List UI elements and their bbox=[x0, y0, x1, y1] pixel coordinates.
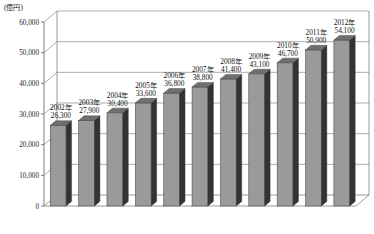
bar-column bbox=[164, 89, 185, 206]
data-label: 2006年36,800 bbox=[164, 71, 186, 88]
bar-chart: 010,00020,00030,00040,00050,00060,000 20… bbox=[0, 0, 374, 234]
bar-column bbox=[220, 74, 241, 206]
data-label: 2003年27,900 bbox=[78, 98, 100, 115]
chart-canvas: 010,00020,00030,00040,00050,00060,000 20… bbox=[0, 0, 374, 234]
bar-column bbox=[277, 58, 298, 206]
y-tick-label: 0 bbox=[35, 203, 39, 211]
bar-front-face bbox=[277, 63, 293, 206]
bar-side-face bbox=[180, 89, 185, 206]
data-label-value: 41,400 bbox=[221, 65, 241, 74]
bar-side-face bbox=[94, 116, 99, 206]
bar-side-face bbox=[236, 74, 241, 206]
bar-side-face bbox=[208, 82, 213, 206]
bar-front-face bbox=[107, 113, 123, 206]
bar-front-face bbox=[50, 125, 66, 206]
bar-column bbox=[334, 35, 355, 206]
data-label-value: 46,700 bbox=[278, 49, 298, 58]
bar-column bbox=[192, 82, 213, 206]
data-label-value: 43,100 bbox=[249, 60, 269, 69]
y-tick-label: 50,000 bbox=[19, 49, 39, 57]
data-label-value: 27,900 bbox=[79, 106, 99, 115]
data-label: 2005年33,600 bbox=[135, 81, 157, 98]
bar-column bbox=[135, 98, 156, 206]
bar-front-face bbox=[220, 79, 236, 206]
data-label-value: 54,100 bbox=[335, 26, 355, 35]
bar-front-face bbox=[79, 120, 95, 206]
y-tick-label: 30,000 bbox=[19, 111, 39, 119]
y-tick-label: 10,000 bbox=[19, 172, 39, 180]
data-label-value: 30,400 bbox=[108, 99, 128, 108]
data-label: 2008年41,400 bbox=[220, 57, 242, 74]
bar-side-face bbox=[123, 108, 128, 206]
bar-front-face bbox=[306, 50, 322, 206]
bar-side-face bbox=[293, 58, 298, 206]
y-axis-unit-label: (億円) bbox=[4, 3, 23, 12]
bar-front-face bbox=[249, 74, 265, 206]
data-label-value: 26,300 bbox=[51, 111, 71, 120]
data-label-value: 36,800 bbox=[164, 79, 184, 88]
bar-column bbox=[107, 108, 128, 206]
y-tick-label: 20,000 bbox=[19, 141, 39, 149]
bar-side-face bbox=[350, 35, 355, 206]
data-label: 2002年26,300 bbox=[50, 103, 72, 120]
bar-front-face bbox=[334, 40, 350, 206]
data-label-value: 38,800 bbox=[193, 73, 213, 82]
bar-column bbox=[79, 116, 100, 206]
bar-side-face bbox=[151, 98, 156, 206]
bar-front-face bbox=[192, 87, 208, 206]
data-label-value: 50,900 bbox=[306, 36, 326, 45]
bar-front-face bbox=[164, 93, 180, 206]
data-label: 2011年50,900 bbox=[306, 28, 327, 45]
bar-side-face bbox=[66, 121, 71, 206]
bar-column bbox=[306, 45, 327, 206]
bar-front-face bbox=[135, 103, 151, 206]
data-label-value: 33,600 bbox=[136, 89, 156, 98]
y-tick-label: 40,000 bbox=[19, 80, 39, 88]
y-tick-label: 60,000 bbox=[19, 19, 39, 27]
data-label: 2012年54,100 bbox=[334, 18, 356, 35]
bar-side-face bbox=[265, 69, 270, 206]
data-label: 2010年46,700 bbox=[277, 41, 299, 58]
data-label: 2004年30,400 bbox=[107, 91, 129, 108]
data-label: 2007年38,800 bbox=[192, 65, 214, 82]
bar-side-face bbox=[321, 45, 326, 206]
data-label: 2009年43,100 bbox=[249, 52, 271, 69]
bar-column bbox=[50, 121, 71, 206]
bar-column bbox=[249, 69, 270, 206]
